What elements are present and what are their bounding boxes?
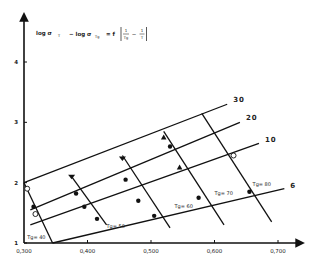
marker-open-circle <box>33 212 38 217</box>
formula-sub-tg: Tg <box>94 35 99 39</box>
marker-dot <box>152 214 156 218</box>
x-tick-label: 0,400 <box>80 248 96 254</box>
x-tick-label: 0,300 <box>16 248 32 254</box>
series-line-tg60 <box>122 156 170 228</box>
marker-triangle <box>177 165 183 170</box>
series-line-20 <box>30 122 240 209</box>
marker-dot <box>136 199 140 203</box>
tg-label: Tg= 60 <box>173 203 192 210</box>
plot-lines <box>24 104 284 243</box>
x-tick-label: 0,500 <box>143 248 159 254</box>
marker-dot <box>31 205 35 209</box>
series-line-6 <box>53 189 285 243</box>
formula-sub-t: T <box>57 34 61 38</box>
formula-title: log σT− log σTg= f1Tg−1T <box>36 27 147 41</box>
y-tick-label: 4 <box>14 59 18 65</box>
marker-triangle-down <box>68 175 75 180</box>
x-tick-label: 0,600 <box>207 248 223 254</box>
series-line-10 <box>30 143 259 224</box>
y-tick-label: 3 <box>14 119 18 125</box>
x-tick-label: 0,700 <box>270 248 286 254</box>
marker-dot <box>74 191 78 195</box>
formula-log-sigma-t: log σ <box>36 30 52 37</box>
marker-dot <box>82 205 86 209</box>
y-tick-label: 1 <box>14 240 18 246</box>
marker-dot <box>196 196 200 200</box>
series-labels: 3020106Tg= 40Tg= 50Tg= 60Tg= 70Tg= 80 <box>26 96 296 241</box>
tg-label: Tg= 70 <box>214 190 233 197</box>
tg-label: Tg= 50 <box>106 223 125 230</box>
series-line-30 <box>24 104 227 182</box>
series-label-10: 10 <box>265 136 277 144</box>
marker-open-circle <box>231 153 236 158</box>
series-label-20: 20 <box>246 114 258 122</box>
formula-frac1-num: 1 <box>125 28 128 33</box>
marker-dot <box>95 217 99 221</box>
formula-frac2-den: T <box>140 36 144 40</box>
marker-dot <box>168 144 172 148</box>
series-line-tg70 <box>164 131 224 225</box>
marker-dot <box>247 190 251 194</box>
marker-dot <box>123 177 127 181</box>
formula-frac2-num: 1 <box>141 28 144 33</box>
formula-minus: − <box>132 31 137 37</box>
formula-frac1-den: Tg <box>123 36 128 40</box>
formula-log-sigma-tg: − log σ <box>69 31 91 38</box>
y-tick-label: 2 <box>14 180 18 186</box>
data-markers <box>25 134 252 221</box>
series-label-6: 6 <box>290 182 296 190</box>
tg-label: Tg= 40 <box>26 234 45 241</box>
chart: log σT− log σTg= f1Tg−1T 12340,3000,4000… <box>0 0 315 262</box>
formula-equals-f: = f <box>106 31 116 37</box>
tg-label: Tg= 80 <box>252 181 271 188</box>
marker-open-circle <box>25 186 30 191</box>
series-label-30: 30 <box>233 96 245 104</box>
series-line-tg50 <box>72 177 107 225</box>
